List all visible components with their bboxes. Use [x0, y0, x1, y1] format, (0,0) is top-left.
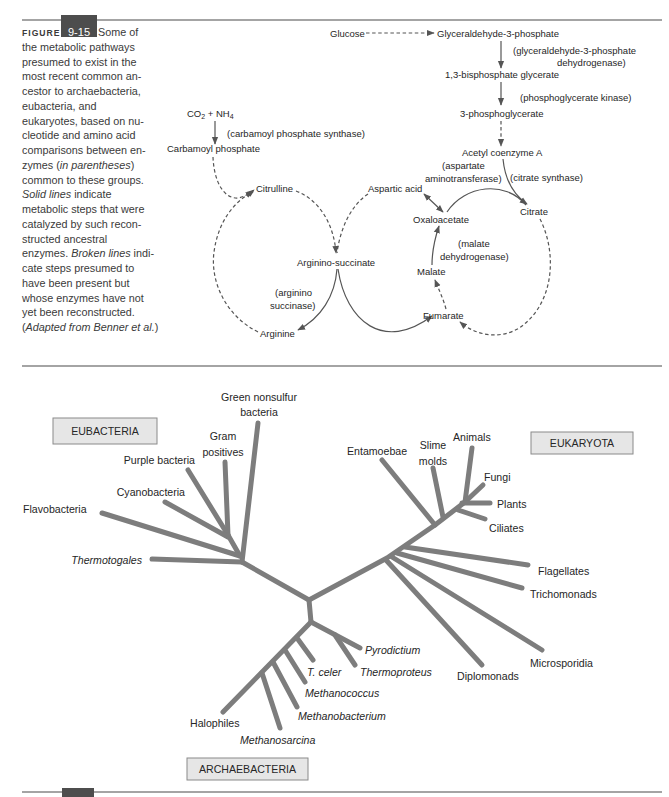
- enzyme-malate-dehydrogenase-line2: dehydrogenase): [440, 251, 509, 262]
- enzyme-argininosuccinase-line2: succinase): [270, 300, 315, 311]
- arrow-aspartic-to-argininosuccinate-dashed: [337, 194, 368, 253]
- node-1-3-bisphosphate-glycerate: 1,3-bisphosphate glycerate: [445, 69, 559, 80]
- node-citrate: Citrate: [520, 206, 548, 217]
- tree-branch-archaea-stem: [309, 600, 311, 622]
- enzyme-phosphoglycerate-kinase: (phosphoglycerate kinase): [520, 92, 631, 103]
- figure-caption: FIGURE 9-15 Some of the metabolic pathwa…: [21, 15, 158, 333]
- caption-line: Solid lines indicate: [22, 188, 111, 200]
- node-arginine: Arginine: [260, 328, 295, 339]
- figure-number: 9-15: [68, 26, 90, 38]
- taxon-label: Plants: [497, 498, 526, 510]
- caption-line: whose enzymes have not: [21, 292, 144, 304]
- taxon-label: Methanococcus: [305, 687, 380, 699]
- node-co2-nh4: CO2 + NH4: [187, 108, 234, 121]
- taxon-label: Cyanobacteria: [117, 486, 185, 498]
- eubacteria-domain-label: EUBACTERIA: [71, 425, 140, 437]
- tree-branch-green-nonsulfur: [242, 423, 258, 562]
- arrow-argininosuccinate-to-fumarate: [338, 269, 432, 332]
- taxon-label: Ciliates: [489, 522, 524, 534]
- node-glucose: Glucose: [330, 28, 365, 39]
- arrow-malate-to-oxaloacetate: [432, 226, 439, 265]
- arrow-arginine-to-citrulline-dashed: [213, 192, 258, 332]
- enzyme-g3pdh-line2: dehydrogenase): [557, 57, 626, 68]
- node-acetyl-coenzyme-a: Acetyl coenzyme A: [462, 147, 543, 158]
- caption-line: yet been reconstructed.: [22, 306, 135, 318]
- caption-line: cleotide and amino acid: [22, 129, 135, 141]
- taxon-label: Microsporidia: [530, 657, 593, 669]
- arrow-fumarate-to-malate-dashed: [435, 280, 446, 309]
- figure-label: FIGURE: [22, 28, 60, 38]
- enzyme-malate-dehydrogenase-line1: (malate: [458, 238, 490, 249]
- taxon-label: T. celer: [307, 666, 342, 678]
- caption-line: presumed to exist in the: [22, 56, 137, 68]
- caption-line: eubacteria, and: [22, 100, 96, 112]
- caption-line: catalyzed by such recon-: [22, 218, 142, 230]
- taxon-label: Pyrodictium: [365, 644, 421, 656]
- taxon-label: Thermotogales: [71, 554, 142, 566]
- tree-branch-ciliates: [458, 510, 485, 519]
- caption-line: common to these groups.: [22, 174, 144, 186]
- taxon-label: Fungi: [484, 471, 511, 483]
- taxon-label: Thermoproteus: [360, 666, 433, 678]
- tree-branch-gram-positives: [225, 462, 228, 535]
- metabolic-pathway-diagram: Glucose Glyceraldehyde-3-phosphate (glyc…: [167, 28, 636, 339]
- enzyme-argininosuccinase-line1: (arginino: [275, 287, 312, 298]
- taxon-label: Purple bacteria: [124, 454, 195, 466]
- caption-line: most recent common an-: [22, 70, 142, 82]
- phylogenetic-tree: EUBACTERIA EUKARYOTA ARCHAEBACTERIA Gree…: [23, 391, 633, 781]
- taxon-label: Flagellates: [538, 565, 589, 577]
- taxon-label: Trichomonads: [530, 588, 597, 600]
- caption-line: comparisons between en-: [22, 144, 146, 156]
- enzyme-aspartate-aminotransferase-line1: (aspartate: [442, 160, 485, 171]
- caption-line: Some of: [98, 26, 139, 38]
- node-citrulline: Citrulline: [256, 183, 293, 194]
- taxon-label: Green nonsulfur: [221, 391, 297, 403]
- taxon-label: molds: [419, 455, 447, 467]
- node-oxaloacetate: Oxaloacetate: [413, 214, 469, 225]
- bottom-tab: [62, 788, 94, 797]
- enzyme-aspartate-aminotransferase-line2: aminotransferase): [425, 173, 502, 184]
- eukaryota-domain-label: EUKARYOTA: [550, 437, 615, 449]
- taxon-label: Slime: [420, 439, 447, 451]
- arrow-citrate-to-fumarate-dashed: [460, 219, 550, 335]
- enzyme-carbamoyl-phosphate-synthase: (carbamoyl phosphate synthase): [227, 128, 365, 139]
- node-glyceraldehyde-3-phosphate: Glyceraldehyde-3-phosphate: [437, 28, 559, 39]
- arrow-aspartic-oxaloacetate-double: [424, 194, 443, 212]
- caption-line: eukaryotes, based on nu-: [22, 115, 144, 127]
- taxon-label: Methanobacterium: [298, 710, 386, 722]
- taxon-label: Diplomonads: [457, 670, 519, 682]
- tree-branch-entamoebae: [382, 460, 435, 525]
- caption-line: (Adapted from Benner et al.): [22, 321, 158, 333]
- tree-branch-eubacteria-stem: [242, 562, 309, 600]
- enzyme-citrate-synthase: (citrate synthase): [510, 172, 583, 183]
- caption-line: have been present but: [22, 277, 129, 289]
- taxon-label: Entamoebae: [347, 445, 407, 457]
- node-fumarate: Fumarate: [423, 310, 464, 321]
- archaebacteria-domain-label: ARCHAEBACTERIA: [199, 763, 297, 775]
- node-arginino-succinate: Arginino-succinate: [297, 257, 375, 268]
- caption-line: metabolic steps that were: [22, 203, 144, 215]
- caption-line: enzymes. Broken lines indi-: [22, 247, 154, 259]
- taxon-label: Methanosarcina: [240, 734, 315, 746]
- figure-canvas: FIGURE 9-15 Some of the metabolic pathwa…: [0, 0, 669, 797]
- taxon-label: Flavobacteria: [23, 503, 87, 515]
- taxon-label: Gram: [210, 430, 237, 442]
- taxon-label: Halophiles: [190, 717, 239, 729]
- tree-branch-methanobacterium: [273, 662, 297, 707]
- arrow-citrulline-to-argininosuccinate-dashed: [296, 191, 336, 253]
- taxon-label: positives: [202, 446, 243, 458]
- tree-branch-methanosarcina: [262, 673, 280, 728]
- tree-branch-methanococcus: [285, 650, 305, 682]
- taxon-label: bacteria: [240, 406, 278, 418]
- node-3-phosphoglycerate: 3-phosphoglycerate: [460, 108, 543, 119]
- caption-line: cestor to archaebacteria,: [22, 85, 141, 97]
- node-carbamoyl-phosphate: Carbamoyl phosphate: [167, 143, 260, 154]
- tree-branch-thermotogales: [152, 559, 242, 562]
- tree-branch-t-celer: [297, 638, 313, 660]
- tree-branch-slime-molds: [433, 468, 443, 517]
- caption-line: structed ancestral: [22, 233, 107, 245]
- enzyme-g3pdh-line1: (glyceraldehyde-3-phosphate: [513, 45, 636, 56]
- caption-line: the metabolic pathways: [22, 41, 135, 53]
- caption-line: cate steps presumed to: [22, 262, 134, 274]
- caption-line: zymes (in parentheses): [22, 159, 134, 171]
